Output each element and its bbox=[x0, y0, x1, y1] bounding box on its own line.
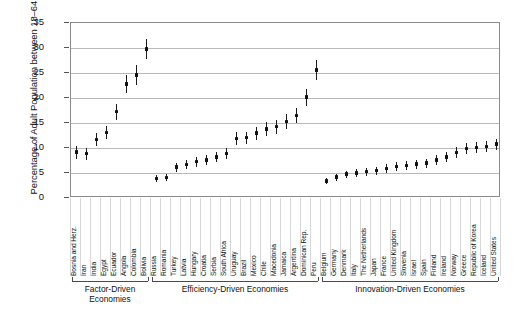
data-point-marker bbox=[495, 142, 498, 145]
group-bracket-tick bbox=[498, 277, 499, 281]
category-label-text: Iran bbox=[80, 265, 87, 276]
data-point-marker bbox=[455, 151, 458, 154]
category-label-text: Japan bbox=[370, 258, 377, 276]
data-point-column bbox=[466, 23, 467, 196]
category-label-text: Jamaica bbox=[280, 252, 287, 276]
category-label-text: Finland bbox=[430, 255, 437, 276]
data-point-marker bbox=[365, 170, 368, 173]
data-point-column bbox=[346, 23, 347, 196]
data-point-column bbox=[396, 23, 397, 196]
data-point-column bbox=[376, 23, 377, 196]
data-point-column bbox=[96, 23, 97, 196]
data-point-column bbox=[116, 23, 117, 196]
x-axis-category-labels: Bosnia and Herz.IranIndiaEgyptEcuadorAng… bbox=[70, 198, 500, 276]
data-point-marker bbox=[145, 47, 148, 50]
data-point-marker bbox=[215, 155, 218, 158]
category-label-text: India bbox=[90, 262, 97, 276]
category-label-text: Colombia bbox=[130, 249, 137, 276]
chart-root: Percentage of Adult Population between 1… bbox=[0, 0, 529, 319]
y-tick-label: 15 bbox=[0, 116, 44, 127]
data-point-marker bbox=[115, 110, 118, 113]
data-point-marker bbox=[155, 177, 158, 180]
data-point-column bbox=[446, 23, 447, 196]
category-label-text: Israel bbox=[410, 260, 417, 276]
data-point-marker bbox=[105, 131, 108, 134]
data-point-marker bbox=[445, 155, 448, 158]
data-point-marker bbox=[355, 171, 358, 174]
category-label-text: Macedonia bbox=[270, 244, 277, 276]
data-point-marker bbox=[135, 73, 138, 76]
data-point-marker bbox=[165, 176, 168, 179]
data-point-marker bbox=[315, 68, 318, 71]
data-point-column bbox=[186, 23, 187, 196]
category-label-text: Turkey bbox=[170, 256, 177, 276]
category-label-text: Ireland bbox=[440, 256, 447, 276]
data-point-marker bbox=[415, 162, 418, 165]
category-label-text: Dominican Rep. bbox=[300, 230, 307, 276]
data-point-marker bbox=[265, 127, 268, 130]
group-bracket-tick bbox=[72, 277, 73, 281]
category-label-text: United States bbox=[490, 237, 497, 276]
data-point-column bbox=[136, 23, 137, 196]
data-point-column bbox=[246, 23, 247, 196]
data-point-column bbox=[126, 23, 127, 196]
category-label-text: Croatia bbox=[200, 255, 207, 276]
data-point-column bbox=[496, 23, 497, 196]
category-label-text: Spain bbox=[420, 259, 427, 276]
data-point-marker bbox=[305, 95, 308, 98]
category-label-text: Republic of Korea bbox=[470, 224, 477, 276]
data-point-marker bbox=[465, 147, 468, 150]
data-point-column bbox=[266, 23, 267, 196]
data-point-marker bbox=[195, 160, 198, 163]
category-label-text: Brazil bbox=[240, 260, 247, 276]
category-label-text: Serbia bbox=[210, 257, 217, 276]
data-point-column bbox=[456, 23, 457, 196]
data-point-marker bbox=[325, 179, 328, 182]
data-point-column bbox=[476, 23, 477, 196]
data-point-marker bbox=[75, 150, 78, 153]
y-axis-ticks: 05101520253035 bbox=[0, 22, 66, 197]
group-bracket-line bbox=[72, 281, 148, 282]
category-label-text: Hungary bbox=[190, 251, 197, 276]
data-point-column bbox=[436, 23, 437, 196]
data-point-column bbox=[166, 23, 167, 196]
data-point-column bbox=[316, 23, 317, 196]
data-point-marker bbox=[205, 158, 208, 161]
data-point-column bbox=[146, 23, 147, 196]
data-point-column bbox=[386, 23, 387, 196]
group-bracket-line bbox=[152, 281, 318, 282]
data-point-marker bbox=[345, 172, 348, 175]
data-point-column bbox=[86, 23, 87, 196]
data-point-column bbox=[306, 23, 307, 196]
y-tick-mark bbox=[64, 122, 69, 123]
data-point-marker bbox=[285, 120, 288, 123]
data-point-column bbox=[336, 23, 337, 196]
data-point-column bbox=[226, 23, 227, 196]
data-point-marker bbox=[425, 161, 428, 164]
data-point-column bbox=[366, 23, 367, 196]
data-point-column bbox=[406, 23, 407, 196]
data-point-column bbox=[106, 23, 107, 196]
data-point-marker bbox=[395, 165, 398, 168]
category-label-text: Russia bbox=[150, 256, 157, 276]
data-point-marker bbox=[375, 169, 378, 172]
category-label-text: South Africa bbox=[220, 241, 227, 276]
data-point-column bbox=[276, 23, 277, 196]
category-label-text: United Kingdom bbox=[390, 230, 397, 276]
category-label-text: Iceland bbox=[480, 255, 487, 276]
category-label-text: Chile bbox=[260, 261, 267, 276]
data-point-column bbox=[206, 23, 207, 196]
data-point-marker bbox=[405, 164, 408, 167]
category-separator bbox=[500, 198, 501, 276]
group-bracket-line bbox=[322, 281, 498, 282]
data-point-column bbox=[216, 23, 217, 196]
data-point-marker bbox=[95, 138, 98, 141]
category-label-text: Ecuador bbox=[110, 252, 117, 276]
category-label-text: Latvia bbox=[180, 259, 187, 276]
category-label-text: Italy bbox=[350, 264, 357, 276]
group-brackets: Factor-Driven EconomiesEfficiency-Driven… bbox=[70, 281, 500, 317]
data-point-column bbox=[356, 23, 357, 196]
plot-area bbox=[70, 22, 500, 197]
data-point-marker bbox=[275, 125, 278, 128]
category-label-text: France bbox=[380, 256, 387, 276]
